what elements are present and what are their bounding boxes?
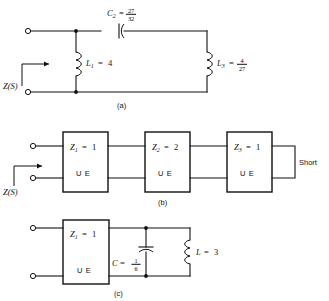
panel-b-port-label: Z(S) bbox=[3, 187, 18, 197]
svg-text:=: = bbox=[82, 229, 87, 239]
panel-b-termination-label: Short bbox=[299, 158, 318, 167]
svg-text:27: 27 bbox=[239, 65, 245, 72]
panel-a-node-bottom bbox=[74, 90, 78, 94]
svg-text:=: = bbox=[164, 142, 169, 152]
svg-text:4: 4 bbox=[240, 57, 243, 64]
panel-c-caption: (c) bbox=[114, 289, 123, 298]
svg-text:2: 2 bbox=[174, 142, 178, 152]
svg-text:=: = bbox=[98, 58, 103, 68]
panel-c-top-terminal bbox=[30, 225, 35, 230]
panel-b-label-Z1: Z1 = 1 bbox=[70, 142, 96, 153]
panel-c-inductor-L bbox=[185, 240, 190, 264]
panel-b-label-Z3: Z3 = 1 bbox=[234, 142, 260, 153]
svg-text:C2: C2 bbox=[107, 8, 116, 19]
panel-a-inductor-L1 bbox=[76, 52, 81, 76]
svg-text:L1: L1 bbox=[85, 58, 94, 69]
panel-c-bottom-terminal bbox=[30, 273, 35, 278]
svg-text:6: 6 bbox=[134, 265, 137, 272]
panel-a-inductor-L3 bbox=[207, 52, 212, 76]
panel-b-ue-box-1 bbox=[63, 132, 108, 192]
circuit-figure: Z(S) C2 = 27 32 L1 = 4 L3 = 4 bbox=[0, 0, 329, 301]
panel-a-port-label: Z(S) bbox=[3, 81, 18, 91]
svg-text:=: = bbox=[246, 142, 251, 152]
panel-a: Z(S) C2 = 27 32 L1 = 4 L3 = 4 bbox=[3, 7, 247, 111]
panel-b-ue-text-2: U E bbox=[158, 169, 172, 178]
panel-b-label-Z2: Z2 = 2 bbox=[152, 142, 178, 153]
panel-c-node-bottom bbox=[144, 274, 148, 278]
panel-a-label-C2: C2 = 27 32 bbox=[107, 7, 136, 22]
panel-a-top-terminal bbox=[25, 28, 30, 33]
panel-a-node-top bbox=[74, 29, 78, 33]
panel-b-short-bar bbox=[272, 146, 295, 178]
panel-b-bottom-terminal bbox=[30, 175, 35, 180]
panel-b-port-arrow-icon bbox=[14, 163, 42, 186]
svg-text:1: 1 bbox=[92, 229, 96, 239]
svg-text:3: 3 bbox=[214, 247, 218, 257]
panel-b-ue-box-2 bbox=[145, 132, 190, 192]
svg-text:L3: L3 bbox=[216, 58, 225, 69]
panel-b-ue-box-3 bbox=[227, 132, 272, 192]
svg-text:1: 1 bbox=[134, 257, 137, 264]
panel-b: Z(S) Z1 = 1 U E Z2 = 2 U E Z3 = bbox=[3, 132, 318, 207]
panel-a-caption: (a) bbox=[117, 101, 127, 110]
panel-a-bottom-terminal bbox=[25, 89, 30, 94]
svg-text:Z2: Z2 bbox=[152, 142, 160, 153]
panel-a-port-arrow-icon bbox=[22, 61, 49, 86]
panel-a-label-L3: L3 = 4 27 bbox=[216, 57, 247, 72]
svg-text:32: 32 bbox=[128, 15, 134, 22]
panel-c-label-L: L = 3 bbox=[195, 247, 218, 257]
panel-b-ue-text-1: U E bbox=[76, 169, 90, 178]
svg-text:=: = bbox=[82, 142, 87, 152]
svg-text:=: = bbox=[204, 247, 209, 257]
svg-text:27: 27 bbox=[128, 7, 134, 14]
panel-c-node-top bbox=[144, 226, 148, 230]
svg-text:=: = bbox=[120, 258, 125, 268]
svg-text:C: C bbox=[112, 258, 118, 268]
panel-c: Z1 = 1 U E C = 1 6 L bbox=[30, 220, 218, 298]
svg-text:4: 4 bbox=[108, 58, 113, 68]
svg-text:Z3: Z3 bbox=[234, 142, 242, 153]
panel-b-caption: (b) bbox=[158, 198, 168, 207]
panel-c-label-C: C = 1 6 bbox=[112, 257, 141, 272]
panel-b-ue-text-3: U E bbox=[240, 169, 254, 178]
panel-c-label-Z1: Z1 = 1 bbox=[70, 229, 96, 240]
svg-text:1: 1 bbox=[92, 142, 96, 152]
svg-text:=: = bbox=[119, 8, 124, 18]
panel-c-ue-text-1: U E bbox=[77, 266, 91, 275]
svg-text:Z1: Z1 bbox=[70, 229, 78, 240]
svg-text:Z1: Z1 bbox=[70, 142, 78, 153]
svg-text:L: L bbox=[195, 247, 201, 257]
svg-text:=: = bbox=[229, 58, 234, 68]
svg-text:1: 1 bbox=[256, 142, 260, 152]
panel-b-top-terminal bbox=[30, 143, 35, 148]
panel-a-label-L1: L1 = 4 bbox=[85, 58, 113, 69]
